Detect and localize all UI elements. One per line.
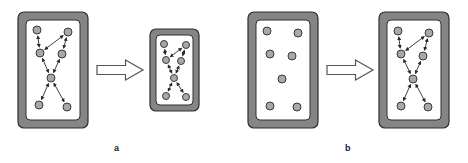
frame-inner — [26, 20, 80, 120]
node-circle — [394, 27, 402, 35]
node-circle — [36, 49, 44, 57]
node-circle — [63, 103, 71, 111]
node-circle — [161, 41, 168, 48]
node-circle — [266, 50, 274, 58]
node-circle — [183, 94, 190, 101]
node-circle — [424, 103, 432, 111]
node-circle — [47, 74, 55, 82]
arrow-a-icon — [97, 60, 143, 80]
panel-label-b: b — [345, 143, 351, 153]
node-circle — [33, 26, 41, 34]
panel-b-after — [379, 12, 449, 128]
node-circle — [163, 57, 170, 64]
panel-b-before — [248, 12, 318, 128]
node-circle — [64, 28, 72, 36]
node-circle — [263, 27, 271, 35]
node-circle — [294, 29, 302, 37]
node-circle — [397, 50, 405, 58]
node-circle — [178, 58, 185, 65]
node-circle — [425, 29, 433, 37]
node-circle — [419, 52, 427, 60]
node-circle — [293, 103, 301, 111]
panel-a-before — [18, 12, 88, 128]
node-circle — [58, 50, 66, 58]
node-circle — [183, 42, 190, 49]
node-circle — [163, 93, 170, 100]
node-circle — [266, 102, 274, 110]
node-circle — [171, 75, 178, 82]
node-circle — [397, 102, 405, 110]
arrow-b-icon — [327, 60, 373, 80]
diagram-canvas — [0, 0, 468, 163]
interaction-arrow — [165, 50, 166, 55]
panel-label-a: a — [114, 143, 119, 153]
node-circle — [278, 75, 286, 83]
node-circle — [288, 52, 296, 60]
node-circle — [35, 101, 43, 109]
node-circle — [409, 75, 417, 83]
panel-a-after — [150, 29, 199, 111]
